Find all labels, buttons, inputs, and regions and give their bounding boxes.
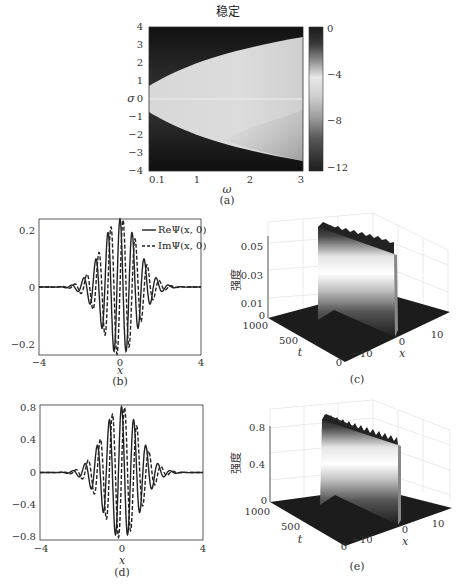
- ytick: −0.2: [11, 339, 35, 350]
- panel-c-tlabel: t: [298, 346, 303, 359]
- xtick: 0: [402, 524, 408, 535]
- panel-e-tlabel: t: [298, 533, 303, 546]
- panel-c-caption: (c): [350, 373, 365, 386]
- ytick: 2: [137, 57, 143, 68]
- colorbar-tick: 0: [327, 23, 333, 34]
- panel-e-zticks: 0.8 0.4 0: [249, 422, 267, 506]
- panel-a-caption: (a): [219, 194, 234, 207]
- ytick: 0: [137, 93, 143, 104]
- xtick: 0: [399, 336, 405, 347]
- panel-a-title: 稳定: [216, 4, 240, 19]
- ytick: 4: [137, 21, 143, 32]
- legend-label-re: ReΨ(x, 0): [158, 224, 206, 235]
- xtick: 4: [200, 543, 206, 554]
- ztick: 0.01: [241, 298, 263, 309]
- panel-b-caption: (b): [112, 375, 128, 388]
- xtick: 0.1: [149, 174, 165, 185]
- ttick: 1000: [245, 506, 270, 517]
- legend-label-im: ImΨ(x, 0): [158, 240, 206, 251]
- ytick: 0.4: [20, 434, 36, 445]
- xtick: −10: [351, 534, 372, 545]
- panel-d-caption: (d): [114, 566, 130, 579]
- xtick: 3: [298, 174, 304, 185]
- panel-d-yticks: 0.8 0.4 0 −0.4 −0.8: [12, 402, 36, 542]
- panel-e-xlabel: x: [402, 535, 409, 548]
- xtick: 1: [194, 174, 200, 185]
- panel-c-xlabel: x: [399, 347, 406, 360]
- ytick: −2: [128, 129, 143, 140]
- ttick: 500: [281, 521, 300, 532]
- ytick: −0.4: [12, 499, 36, 510]
- ttick: 0: [336, 357, 342, 368]
- ttick: 500: [279, 335, 298, 346]
- xtick: 10: [432, 518, 445, 529]
- panel-e-caption: (e): [349, 560, 364, 573]
- ztick: 0.4: [249, 459, 265, 470]
- xtick: 4: [198, 357, 204, 368]
- panel-a-ylabel: σ: [127, 92, 135, 105]
- ytick: 1: [137, 75, 143, 86]
- panel-e-zlabel: 强度: [229, 452, 243, 474]
- panel-b-yticks: 0.2 0 −0.2: [11, 225, 35, 350]
- xtick: −4: [34, 543, 49, 554]
- panel-c-zticks: 0.05 0.03 0.01 0: [241, 241, 265, 321]
- ytick: 0.2: [19, 225, 35, 236]
- panel-c-zlabel: 强度: [229, 269, 243, 291]
- colorbar-tick: −4: [327, 69, 342, 80]
- ytick: 0.8: [20, 402, 36, 413]
- ytick: 3: [137, 39, 143, 50]
- ytick: −1: [128, 111, 143, 122]
- panel-b-wave-profile: 0.2 0 −0.2 −4 0 4 x (b) ReΨ(x, 0) ImΨ(x,…: [11, 219, 207, 388]
- colorbar: [309, 27, 323, 171]
- colorbar-tick: −8: [327, 115, 342, 126]
- panel-d-xticks: −4 0 4: [34, 543, 207, 554]
- figure-canvas: 稳定 4 3 2 1 0 −1 −2 −3 −4 σ 0.1 1 2 3: [0, 0, 460, 585]
- panel-e-3d-intensity: 0.8 0.4 0 强度 1000 500 0 t −10 0 10 x (e): [229, 400, 452, 573]
- xtick: 0: [119, 543, 125, 554]
- xtick: 2: [247, 174, 253, 185]
- ttick: 1000: [243, 320, 268, 331]
- colorbar-tick: −12: [327, 162, 348, 173]
- ytick: 0: [29, 282, 35, 293]
- ytick: 0: [30, 467, 36, 478]
- ztick: 0.03: [241, 270, 263, 281]
- ztick: 0.8: [249, 422, 265, 433]
- panel-c-3d-intensity: 0.05 0.03 0.01 0 强度 1000 500 0 t −10 0 1…: [229, 213, 450, 386]
- ttick: 0: [341, 541, 347, 552]
- panel-e-ridge-edge: [398, 445, 401, 525]
- ztick: 0: [261, 495, 267, 506]
- ytick: −3: [128, 147, 143, 158]
- xtick: −4: [32, 357, 47, 368]
- xtick: 10: [431, 329, 444, 340]
- colorbar-ticks: 0 −4 −8 −12: [327, 23, 348, 173]
- panel-d-wave-profile: 0.8 0.4 0 −0.4 −0.8 −4 0 4 x (d): [12, 402, 206, 579]
- panel-a-stability-heatmap: 稳定 4 3 2 1 0 −1 −2 −3 −4 σ 0.1 1 2 3: [127, 4, 348, 207]
- ytick: −4: [128, 165, 143, 176]
- xtick: −10: [351, 348, 372, 359]
- ytick: −0.8: [12, 531, 36, 542]
- ztick: 0.05: [241, 241, 263, 252]
